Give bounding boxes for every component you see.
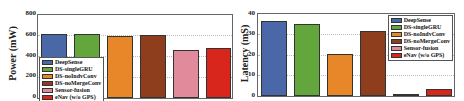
swatch-icon — [42, 74, 53, 79]
power-legend: DeepSense DS-singleGRU DS-noIndvConv DS-… — [39, 57, 104, 101]
legend-item: DS-noMergeConv — [391, 38, 450, 45]
legend-label: DS-noIndvConv — [404, 31, 446, 38]
legend-label: eNav (w/o GPS) — [55, 94, 96, 101]
swatch-icon — [391, 39, 402, 44]
swatch-icon — [391, 32, 402, 37]
gridline — [38, 35, 232, 36]
bar-enav — [206, 48, 231, 98]
swatch-icon — [391, 25, 402, 30]
power-tick-0: 0 — [16, 92, 36, 100]
power-tick-600: 600 — [16, 30, 36, 38]
bar-ds-nomergeconv — [360, 31, 386, 96]
swatch-icon — [42, 95, 53, 100]
legend-item: Sensor-fusion — [391, 45, 450, 52]
legend-item: DS-singleGRU — [391, 24, 450, 31]
legend-item: DS-noIndvConv — [42, 73, 101, 80]
legend-item: eNav (w/o GPS) — [42, 94, 101, 101]
swatch-icon — [42, 67, 53, 72]
swatch-icon — [391, 53, 402, 58]
swatch-icon — [42, 60, 53, 65]
swatch-icon — [391, 18, 402, 23]
legend-label: DeepSense — [55, 59, 82, 66]
legend-item: DS-noIndvConv — [391, 31, 450, 38]
latency-plot-area: DeepSense DS-singleGRU DS-noIndvConv DS-… — [257, 13, 455, 97]
power-plot-area: DeepSense DS-singleGRU DS-noIndvConv DS-… — [37, 14, 233, 99]
latency-legend: DeepSense DS-singleGRU DS-noIndvConv DS-… — [388, 15, 453, 61]
legend-label: DeepSense — [404, 17, 431, 24]
legend-label: DS-noMergeConv — [404, 38, 450, 45]
swatch-icon — [391, 46, 402, 51]
legend-label: DS-singleGRU — [404, 24, 442, 31]
legend-item: eNav (w/o GPS) — [391, 52, 450, 59]
bar-enav — [426, 89, 452, 96]
legend-item: DS-singleGRU — [42, 66, 101, 73]
bar-deepsense — [261, 21, 287, 96]
legend-label: DS-noMergeConv — [55, 80, 101, 87]
legend-item: DS-noMergeConv — [42, 80, 101, 87]
bar-sensor-fusion — [173, 50, 199, 98]
legend-label: eNav (w/o GPS) — [404, 52, 445, 59]
swatch-icon — [42, 81, 53, 86]
power-tick-400: 400 — [16, 51, 36, 59]
legend-item: DeepSense — [42, 59, 101, 66]
legend-label: DS-noIndvConv — [55, 73, 97, 80]
power-tick-800: 800 — [16, 9, 36, 17]
gridline — [258, 75, 454, 76]
legend-label: Sensor-fusion — [404, 45, 439, 52]
bar-ds-noindvconv — [107, 36, 133, 98]
power-chart: Power (mW) 800 600 400 200 0 DeepSense D… — [0, 0, 232, 101]
latency-tick-20: 20 — [235, 50, 255, 58]
legend-item: DeepSense — [391, 17, 450, 24]
legend-label: DS-singleGRU — [55, 66, 93, 73]
swatch-icon — [42, 88, 53, 93]
bar-ds-nomergeconv — [140, 35, 166, 98]
bar-sensor-fusion — [393, 94, 419, 96]
legend-item: Sensor-fusion — [42, 87, 101, 94]
latency-tick-30: 30 — [235, 29, 255, 37]
latency-tick-0: 0 — [235, 91, 255, 99]
latency-tick-10: 10 — [235, 70, 255, 78]
bar-ds-noindvconv — [327, 54, 353, 96]
latency-tick-40: 40 — [235, 9, 255, 17]
power-tick-200: 200 — [16, 71, 36, 79]
bar-ds-singlegru — [294, 24, 320, 96]
latency-chart: Latency (mS) 40 30 20 10 0 DeepSense DS-… — [232, 0, 464, 101]
legend-label: Sensor-fusion — [55, 87, 90, 94]
